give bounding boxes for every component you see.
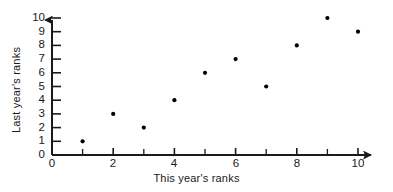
x-tick-label-6: 6 — [226, 157, 246, 169]
data-point — [142, 126, 146, 130]
x-tick-label-10: 10 — [348, 157, 368, 169]
data-point — [111, 112, 115, 116]
y-tick-label-8: 8 — [23, 38, 45, 50]
y-tick-label-9: 9 — [23, 25, 45, 37]
y-tick-label-3: 3 — [23, 107, 45, 119]
y-axis-title: Last year's ranks — [10, 30, 22, 150]
y-tick-label-4: 4 — [23, 93, 45, 105]
data-point — [234, 57, 238, 61]
data-point — [295, 43, 299, 47]
y-tick-label-5: 5 — [23, 80, 45, 92]
y-tick-label-6: 6 — [23, 66, 45, 78]
data-point-group — [81, 16, 361, 143]
y-tick-label-10: 10 — [23, 11, 45, 23]
data-point — [81, 139, 85, 143]
data-point — [264, 84, 268, 88]
x-tick-label-4: 4 — [164, 157, 184, 169]
scatter-plot-figure: 0 2 4 6 8 10 10 9 8 7 6 5 4 3 2 1 0 This… — [0, 0, 393, 192]
y-tick-label-0: 0 — [23, 148, 45, 160]
x-axis-title: This year's ranks — [0, 172, 393, 184]
y-tick-label-1: 1 — [23, 134, 45, 146]
data-point — [172, 98, 176, 102]
x-axis-ticks — [52, 148, 358, 155]
y-axis-ticks — [52, 18, 61, 155]
axis-lines — [52, 20, 371, 155]
y-tick-label-2: 2 — [23, 121, 45, 133]
data-point — [325, 16, 329, 20]
x-tick-label-2: 2 — [103, 157, 123, 169]
data-point — [356, 30, 360, 34]
y-tick-label-7: 7 — [23, 52, 45, 64]
data-point — [203, 71, 207, 75]
x-tick-label-0: 0 — [42, 157, 62, 169]
x-tick-label-8: 8 — [287, 157, 307, 169]
